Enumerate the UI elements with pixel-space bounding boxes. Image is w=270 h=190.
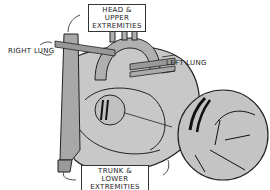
magnified-view-circle <box>178 90 268 180</box>
vena-cava <box>60 34 80 160</box>
foramen-ovale-focus-circle <box>95 95 125 125</box>
trunk-lower-extremities-label: TRUNK & LOWER EXTREMITIES <box>81 165 149 190</box>
head-upper-extremities-label: HEAD & UPPER EXTREMITIES <box>88 4 146 32</box>
head-upper-line2: EXTREMITIES <box>91 22 143 30</box>
trunk-lower-line2: EXTREMITIES <box>84 183 146 190</box>
left-lung-label: LEFT LUNG <box>166 59 207 67</box>
right-lung-label: RIGHT LUNG <box>8 47 54 55</box>
trunk-lower-line1: TRUNK & LOWER <box>84 167 146 183</box>
inferior-vena-cava <box>58 160 72 172</box>
head-upper-line1: HEAD & UPPER <box>91 6 143 22</box>
